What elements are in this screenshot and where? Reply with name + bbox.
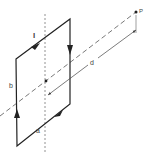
side-a-label: a (36, 127, 40, 134)
loop-center-dot (45, 80, 48, 83)
point-p-label: P (139, 8, 143, 14)
current-arrow-right-icon (67, 45, 73, 55)
distance-label: d (90, 59, 94, 66)
distance-dimension-line-lower (48, 65, 88, 95)
point-p-dot (135, 11, 138, 14)
current-arrow-left-icon (14, 109, 20, 118)
center-to-p-line (0, 12, 136, 116)
current-label: I (33, 31, 35, 40)
diagram-canvas: I b a d P (0, 0, 144, 154)
side-b-label: b (9, 82, 13, 89)
current-loop (16, 19, 70, 146)
distance-dimension-line-upper (98, 30, 136, 58)
